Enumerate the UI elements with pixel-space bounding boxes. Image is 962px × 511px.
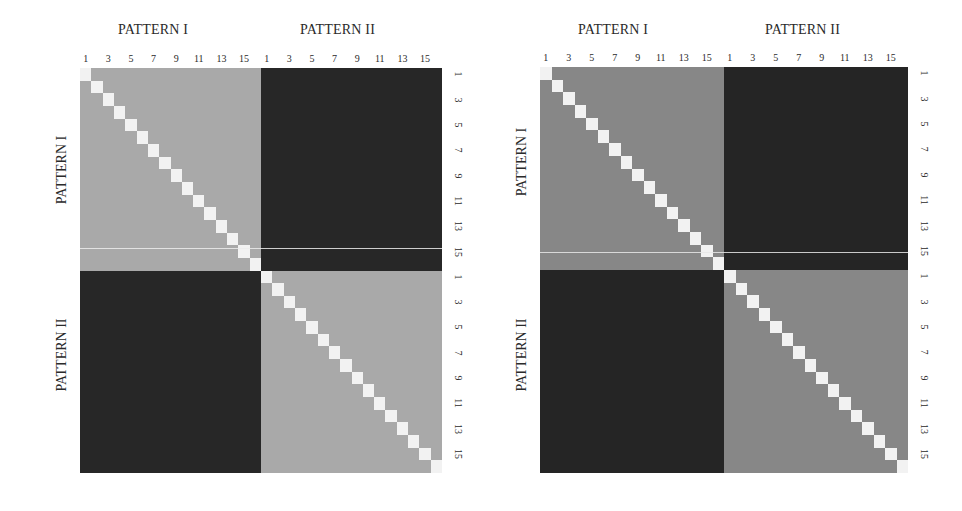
diagonal-cell xyxy=(724,270,736,283)
x-tick-label: 9 xyxy=(819,52,824,63)
diagonal-cell xyxy=(306,321,317,334)
diagonal-cell xyxy=(793,346,805,359)
diagonal-cell xyxy=(897,460,909,473)
top-group-label-pattern-1: PATTERN I xyxy=(118,22,188,38)
x-tick-label: 1 xyxy=(264,53,269,64)
x-tick-label: 7 xyxy=(151,53,156,64)
y-tick-label: 1 xyxy=(453,72,464,77)
y-tick-label: 5 xyxy=(453,122,464,127)
diagonal-cell xyxy=(862,422,874,435)
diagonal-cell xyxy=(805,359,817,372)
y-tick-label: 13 xyxy=(919,221,930,231)
left-group-label-pattern-2: PATTERN II xyxy=(54,319,70,392)
y-tick-label: 15 xyxy=(453,449,464,459)
y-tick-label: 9 xyxy=(453,173,464,178)
diagonal-cell xyxy=(839,397,851,410)
diagonal-cell xyxy=(782,333,794,346)
x-tick-label: 11 xyxy=(656,52,666,63)
y-tick-label: 15 xyxy=(919,449,930,459)
diagonal-cell xyxy=(851,410,863,423)
y-tick-label: 3 xyxy=(453,97,464,102)
diagonal-cell xyxy=(352,372,363,385)
diagonal-cell xyxy=(80,68,91,81)
left-group-label-pattern-1: PATTERN I xyxy=(514,128,530,196)
x-tick-label: 5 xyxy=(589,52,594,63)
diagonal-cell xyxy=(148,144,159,157)
diagonal-cell xyxy=(540,67,552,80)
top-group-label-pattern-2: PATTERN II xyxy=(765,22,840,38)
diagonal-cell xyxy=(713,257,725,270)
x-tick-label: 5 xyxy=(773,52,778,63)
diagonal-cell xyxy=(609,143,621,156)
x-tick-label: 7 xyxy=(796,52,801,63)
separator-line xyxy=(540,252,908,253)
x-tick-label: 13 xyxy=(863,52,873,63)
diagonal-cell xyxy=(770,321,782,334)
diagonal-cell xyxy=(272,283,283,296)
left-group-label-pattern-2: PATTERN II xyxy=(514,319,530,392)
diagonal-cell xyxy=(563,92,575,105)
diagonal-cell xyxy=(329,346,340,359)
x-tick-label: 3 xyxy=(287,53,292,64)
y-tick-label: 3 xyxy=(453,300,464,305)
x-tick-label: 1 xyxy=(543,52,548,63)
diagonal-cell xyxy=(736,283,748,296)
diagonal-cell xyxy=(159,157,170,170)
diagonal-cell xyxy=(125,119,136,132)
block-pattern1-pattern2 xyxy=(261,68,442,271)
diagonal-cell xyxy=(385,410,396,423)
y-tick-label: 5 xyxy=(919,325,930,330)
top-group-label-pattern-2: PATTERN II xyxy=(300,22,375,38)
diagonal-cell xyxy=(374,397,385,410)
x-tick-label: 3 xyxy=(566,52,571,63)
diagonal-cell xyxy=(103,93,114,106)
x-tick-label: 15 xyxy=(239,53,249,64)
x-tick-label: 7 xyxy=(612,52,617,63)
diagonal-cell xyxy=(227,233,238,246)
x-tick-label: 13 xyxy=(216,53,226,64)
block-pattern2-pattern1 xyxy=(80,271,261,474)
diagonal-cell xyxy=(408,435,419,448)
diagonal-cell xyxy=(690,232,702,245)
y-tick-label: 7 xyxy=(453,148,464,153)
diagonal-cell xyxy=(874,435,886,448)
diagonal-cell xyxy=(363,384,374,397)
diagonal-cell xyxy=(91,81,102,94)
diagonal-cell xyxy=(828,384,840,397)
y-tick-label: 13 xyxy=(919,424,930,434)
diagonal-cell xyxy=(340,359,351,372)
diagonal-cell xyxy=(667,207,679,220)
x-tick-label: 9 xyxy=(355,53,360,64)
diagonal-cell xyxy=(632,169,644,182)
y-tick-label: 1 xyxy=(919,71,930,76)
y-tick-label: 1 xyxy=(453,274,464,279)
top-group-label-pattern-1: PATTERN I xyxy=(578,22,648,38)
x-tick-label: 15 xyxy=(420,53,430,64)
diagonal-cell xyxy=(701,245,713,258)
x-tick-label: 13 xyxy=(679,52,689,63)
diagonal-cell xyxy=(431,460,442,473)
y-tick-label: 3 xyxy=(919,299,930,304)
y-tick-label: 3 xyxy=(919,96,930,101)
x-tick-label: 5 xyxy=(309,53,314,64)
diagonal-cell xyxy=(171,169,182,182)
y-tick-label: 1 xyxy=(919,274,930,279)
diagonal-cell xyxy=(397,422,408,435)
block-pattern1-pattern2 xyxy=(724,67,908,270)
left-group-label-pattern-1: PATTERN I xyxy=(54,136,70,204)
diagonal-cell xyxy=(216,220,227,233)
x-tick-label: 11 xyxy=(375,53,385,64)
y-tick-label: 13 xyxy=(453,221,464,231)
y-tick-label: 9 xyxy=(919,172,930,177)
diagonal-cell xyxy=(182,182,193,195)
similarity-matrix xyxy=(80,68,442,473)
y-tick-label: 15 xyxy=(919,246,930,256)
similarity-matrix xyxy=(540,67,908,473)
diagonal-cell xyxy=(678,219,690,232)
x-tick-label: 1 xyxy=(83,53,88,64)
diagonal-cell xyxy=(137,131,148,144)
x-tick-label: 9 xyxy=(635,52,640,63)
y-tick-label: 15 xyxy=(453,247,464,257)
x-tick-label: 13 xyxy=(397,53,407,64)
block-pattern2-pattern1 xyxy=(540,270,724,473)
